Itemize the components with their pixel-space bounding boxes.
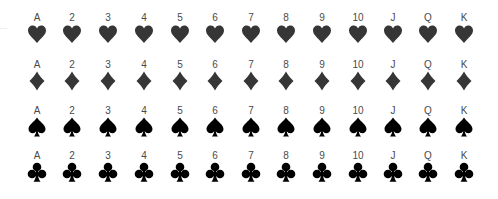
rank-label: 5 [165,106,195,116]
card-hearts: 9 [307,13,337,59]
rank-label: K [449,60,479,70]
heart-icon [98,24,118,44]
spade-icon [170,117,190,137]
club-icon [62,162,82,182]
heart-icon [348,24,368,44]
rank-label: 6 [200,106,230,116]
rank-label: 10 [343,13,373,23]
card-diamonds: 7 [236,60,266,106]
spade-icon [98,117,118,137]
rank-label: 6 [200,13,230,23]
card-diamonds: 2 [57,60,87,106]
club-icon [98,162,118,182]
rank-label: 3 [93,106,123,116]
card-diamonds: 9 [307,60,337,106]
card-diamonds: 10 [343,60,373,106]
rank-label: 3 [93,60,123,70]
rank-label: 7 [236,106,266,116]
heart-icon [418,24,438,44]
rank-label: 4 [129,151,159,161]
spade-icon [418,117,438,137]
rank-label: 4 [129,13,159,23]
card-clubs: A [22,151,52,197]
heart-icon [312,24,332,44]
diamond-icon [241,71,261,91]
card-spades: 9 [307,106,337,152]
club-icon [170,162,190,182]
rank-label: 7 [236,151,266,161]
card-spades: 5 [165,106,195,152]
rank-label: 7 [236,13,266,23]
rank-label: 9 [307,106,337,116]
heart-icon [62,24,82,44]
rank-label: A [22,106,52,116]
card-clubs: Q [413,151,443,197]
card-clubs: 8 [271,151,301,197]
card-clubs: K [449,151,479,197]
rank-label: K [449,106,479,116]
rank-label: 6 [200,60,230,70]
diamond-icon [383,71,403,91]
card-clubs: 2 [57,151,87,197]
diamond-icon [134,71,154,91]
card-spades: A [22,106,52,152]
heart-icon [134,24,154,44]
rank-label: K [449,151,479,161]
card-clubs: 7 [236,151,266,197]
spade-icon [312,117,332,137]
rank-label: 9 [307,60,337,70]
card-hearts: J [378,13,408,59]
rank-label: 10 [343,60,373,70]
rank-label: 9 [307,151,337,161]
card-diamonds: A [22,60,52,106]
rank-label: 5 [165,13,195,23]
card-spades: 4 [129,106,159,152]
card-spades: K [449,106,479,152]
rank-label: 10 [343,151,373,161]
suit-row-spades: A2345678910JQK [0,106,498,152]
rank-label: Q [413,151,443,161]
card-diamonds: 6 [200,60,230,106]
card-diamonds: K [449,60,479,106]
rank-label: 2 [57,13,87,23]
rank-label: 9 [307,13,337,23]
rank-label: 5 [165,151,195,161]
club-icon [276,162,296,182]
rank-label: 2 [57,106,87,116]
club-icon [383,162,403,182]
card-hearts: 5 [165,13,195,59]
spade-icon [454,117,474,137]
club-icon [134,162,154,182]
club-icon [312,162,332,182]
card-diamonds: 8 [271,60,301,106]
card-hearts: 3 [93,13,123,59]
spade-icon [383,117,403,137]
card-hearts: 6 [200,13,230,59]
card-spades: 7 [236,106,266,152]
card-spades: 2 [57,106,87,152]
rank-label: 4 [129,60,159,70]
rank-label: J [378,106,408,116]
club-icon [454,162,474,182]
card-clubs: J [378,151,408,197]
diamond-icon [418,71,438,91]
diamond-icon [205,71,225,91]
rank-label: 6 [200,151,230,161]
heart-icon [383,24,403,44]
card-spades: J [378,106,408,152]
heart-icon [241,24,261,44]
card-clubs: 4 [129,151,159,197]
diamond-icon [454,71,474,91]
card-diamonds: 5 [165,60,195,106]
rank-label: 3 [93,151,123,161]
suit-row-clubs: A2345678910JQK [0,151,498,197]
spade-icon [276,117,296,137]
card-clubs: 5 [165,151,195,197]
rank-label: A [22,60,52,70]
diamond-icon [27,71,47,91]
card-diamonds: J [378,60,408,106]
card-spades: 10 [343,106,373,152]
card-hearts: 10 [343,13,373,59]
club-icon [418,162,438,182]
heart-icon [454,24,474,44]
